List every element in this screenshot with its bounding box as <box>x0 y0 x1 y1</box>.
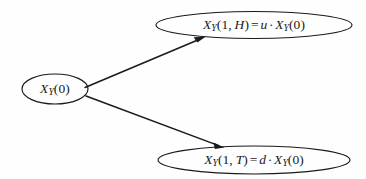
up-rhs-close-paren: ) <box>300 17 305 32</box>
down-close-paren: ) <box>243 152 248 167</box>
diagram-canvas: XY(0) XY(1, H)=u·XY(0) XY(1, T)=d·XY(0) <box>0 0 366 179</box>
up-comma: , <box>228 17 231 32</box>
up-state: H <box>235 17 245 32</box>
up-rhs-variable: X <box>275 17 283 32</box>
down-rhs-variable: X <box>274 152 282 167</box>
down-cdot: · <box>268 152 273 167</box>
up-equals: = <box>251 17 259 32</box>
down-equals: = <box>250 152 258 167</box>
edge-root-to-up-line <box>85 40 199 88</box>
down-node-label: XY(1, T)=d·XY(0) <box>204 153 304 168</box>
root-close-paren: ) <box>65 81 70 96</box>
down-factor: d <box>259 152 266 167</box>
down-rhs-close-paren: ) <box>299 152 304 167</box>
edge-root-to-down-line <box>86 96 218 145</box>
edge-root-to-down <box>86 96 225 149</box>
up-close-paren: ) <box>244 17 249 32</box>
down-state: T <box>236 152 244 167</box>
edge-root-to-down-arrowhead <box>213 143 224 149</box>
edge-root-to-up <box>85 37 206 88</box>
up-node-label: XY(1, H)=u·XY(0) <box>203 18 305 33</box>
down-comma: , <box>229 152 232 167</box>
root-node-label: XY(0) <box>40 82 70 97</box>
up-cdot: · <box>269 17 274 32</box>
up-factor: u <box>260 17 267 32</box>
